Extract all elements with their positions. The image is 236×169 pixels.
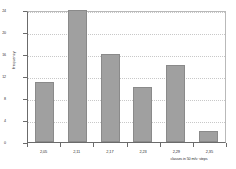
bar[interactable] bbox=[68, 10, 87, 142]
histogram-chart: frequency 04812162024 2,052,112,172,232,… bbox=[0, 0, 236, 169]
x-axis-tick-mark bbox=[127, 143, 128, 147]
x-axis-tick-mark bbox=[27, 143, 28, 147]
plot-area bbox=[27, 11, 226, 143]
bar-slot bbox=[127, 12, 160, 142]
x-axis-tick-label: 2,23 bbox=[128, 149, 158, 154]
y-axis-tick-label: 0 bbox=[0, 141, 6, 145]
bar[interactable] bbox=[133, 87, 152, 142]
x-axis-tick-label: 2,35 bbox=[194, 149, 224, 154]
x-axis-tick-label: 2,05 bbox=[29, 149, 59, 154]
x-axis-tick-mark bbox=[193, 143, 194, 147]
y-axis-tick-label: 12 bbox=[0, 75, 6, 79]
y-axis-title: frequency bbox=[12, 37, 16, 83]
y-axis-tick-label: 24 bbox=[0, 9, 6, 13]
bar-slot bbox=[61, 12, 94, 142]
x-axis-tick-label: 2,29 bbox=[161, 149, 191, 154]
bar-slot bbox=[94, 12, 127, 142]
x-axis-tick-mark bbox=[226, 143, 227, 147]
bar[interactable] bbox=[166, 65, 185, 142]
x-axis-tick-mark bbox=[93, 143, 94, 147]
bar-slot bbox=[159, 12, 192, 142]
x-axis-tick-label: 2,17 bbox=[95, 149, 125, 154]
bar-group bbox=[28, 12, 225, 142]
bar-slot bbox=[28, 12, 61, 142]
y-axis-tick-label: 4 bbox=[0, 119, 6, 123]
y-axis-tick-label: 20 bbox=[0, 31, 6, 35]
x-axis-tick-mark bbox=[160, 143, 161, 147]
y-axis-tick-label: 8 bbox=[0, 97, 6, 101]
bar[interactable] bbox=[199, 131, 218, 142]
x-axis-tick-label: 2,11 bbox=[62, 149, 92, 154]
x-axis-title: classes in 50 m/s² steps bbox=[150, 157, 228, 161]
bar[interactable] bbox=[101, 54, 120, 142]
bar[interactable] bbox=[35, 82, 54, 143]
bar-slot bbox=[192, 12, 225, 142]
x-axis-tick-mark bbox=[60, 143, 61, 147]
y-axis-tick-label: 16 bbox=[0, 53, 6, 57]
